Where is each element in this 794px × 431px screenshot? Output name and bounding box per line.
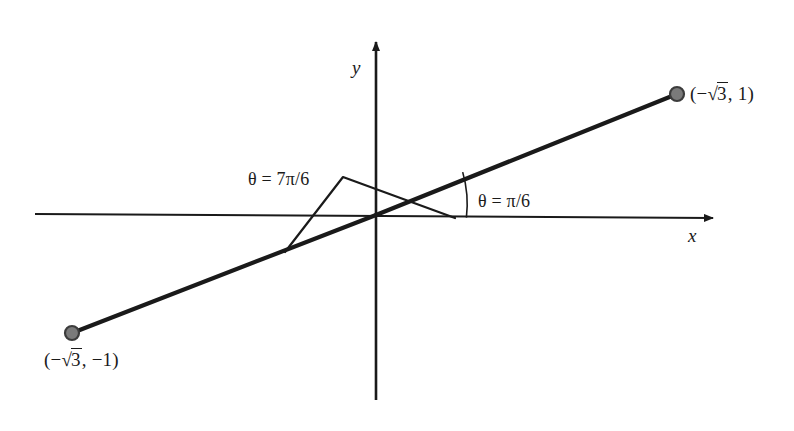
angle-value-pi-over-6: π/6: [507, 191, 531, 211]
theta-symbol: θ: [248, 169, 257, 189]
theta-symbol: θ: [478, 191, 487, 211]
angle-label-pi-over-6: θ = π/6: [478, 192, 530, 210]
square-root-icon: √3: [61, 350, 81, 369]
point-marker-upper-right: [670, 87, 684, 101]
square-root-icon: √3: [707, 84, 727, 103]
figure-root: y x (−√3, 1) (−√3, −1) θ = π/6 θ = 7π/6: [0, 0, 794, 431]
equals-symbol: =: [492, 191, 502, 211]
point-label-lower-left: (−√3, −1): [44, 350, 119, 369]
equals-symbol: =: [262, 169, 272, 189]
ray-7pi-over-6: [72, 215, 376, 333]
point-label-upper-right: (−√3, 1): [690, 84, 754, 103]
x-axis-label: x: [688, 226, 696, 245]
angle-label-7pi-over-6: θ = 7π/6: [248, 170, 309, 188]
point-label-lower-left-prefix: (−: [44, 349, 61, 370]
point-label-upper-right-suffix: , 1): [728, 83, 754, 104]
diagram-canvas: [0, 0, 794, 431]
point-label-lower-left-suffix: , −1): [82, 349, 119, 370]
y-axis-label: y: [352, 58, 360, 77]
point-marker-lower-left: [65, 326, 79, 340]
angle-value-7pi-over-6: 7π/6: [277, 169, 310, 189]
point-label-upper-right-prefix: (−: [690, 83, 707, 104]
